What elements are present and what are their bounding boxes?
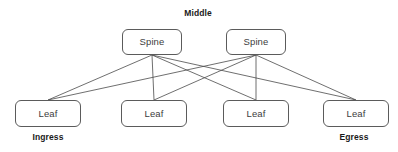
- spine-node-1[interactable]: Spine: [226, 29, 286, 55]
- leaf-node-0[interactable]: Leaf: [15, 100, 81, 127]
- spine-node-1-label: Spine: [244, 37, 269, 47]
- zone-label-middle: Middle: [148, 8, 248, 18]
- zone-label-ingress: Ingress: [8, 132, 88, 142]
- spine-leaf-topology-diagram: Middle Spine Spine Leaf Leaf Leaf Leaf I…: [0, 0, 398, 152]
- leaf-node-2-label: Leaf: [247, 109, 266, 119]
- spine-node-0[interactable]: Spine: [122, 29, 182, 55]
- link-spine-0-to-leaf-0: [48, 55, 152, 100]
- leaf-node-0-label: Leaf: [39, 109, 58, 119]
- leaf-node-2[interactable]: Leaf: [223, 100, 289, 127]
- spine-node-0-label: Spine: [140, 37, 165, 47]
- leaf-node-1-label: Leaf: [145, 109, 164, 119]
- leaf-node-3[interactable]: Leaf: [323, 100, 389, 127]
- leaf-node-3-label: Leaf: [347, 109, 366, 119]
- zone-label-egress: Egress: [314, 132, 394, 142]
- leaf-node-1[interactable]: Leaf: [121, 100, 187, 127]
- link-layer: [0, 0, 398, 152]
- link-spine-0-to-leaf-3: [152, 55, 356, 100]
- link-spine-1-to-leaf-3: [256, 55, 356, 100]
